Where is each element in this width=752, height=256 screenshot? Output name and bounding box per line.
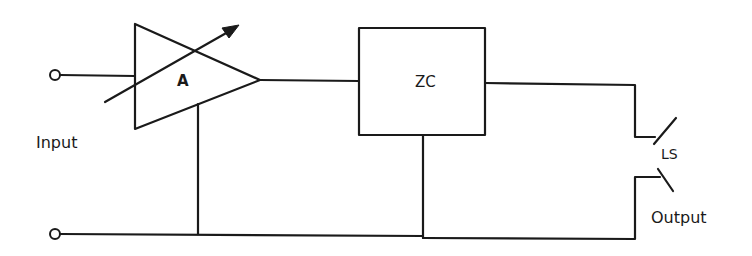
zero-crossing-block [359,28,485,238]
zero-crossing-label: ZC [415,73,436,91]
circuit-diagram [0,0,752,256]
common-rail [50,229,423,239]
switch-label: LS [661,146,678,162]
amplifier-label: A [177,72,189,90]
amplifier-symbol [135,24,359,234]
output-return-wire [423,177,660,239]
output-label: Output [651,208,707,227]
input-top-terminal [50,70,135,80]
zc-to-switch-wire [485,83,655,137]
amp-to-zc-wire [260,80,359,81]
input-label: Input [36,133,77,152]
variable-gain-arrow-icon [105,25,239,102]
